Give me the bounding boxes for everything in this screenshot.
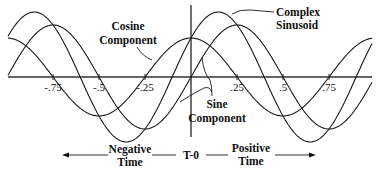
tick-label: .75 — [322, 81, 336, 93]
cosine-label-line1: Cosine — [111, 20, 144, 32]
cosine-leader-line — [137, 47, 152, 60]
sine-label-line1: Sine — [206, 98, 227, 110]
negative-time-label-line2: Time — [117, 156, 142, 168]
complex-leader-line — [232, 10, 274, 14]
sine-label-line2: Component — [188, 112, 246, 125]
positive-time-label-line2: Time — [238, 155, 263, 167]
arrow-left-icon — [62, 153, 69, 158]
tick-label: .5 — [279, 81, 288, 93]
complex-label-line1: Complex — [276, 6, 320, 19]
tick-label: -.5 — [93, 81, 105, 93]
complex-sinusoid-diagram: -.75-.5-.25.25.5.75 Cosine Component Com… — [0, 0, 379, 174]
tick-label: -.25 — [136, 81, 154, 93]
origin-label: T-0 — [183, 149, 199, 161]
arrow-right-icon — [309, 153, 316, 158]
tick-label: -.75 — [44, 81, 62, 93]
negative-time-label-line1: Negative — [109, 143, 152, 156]
cosine-label-line2: Component — [99, 34, 157, 47]
positive-time-label-line1: Positive — [232, 142, 270, 154]
complex-label-line2: Sinusoid — [276, 19, 319, 31]
tick-label: .25 — [230, 81, 244, 93]
